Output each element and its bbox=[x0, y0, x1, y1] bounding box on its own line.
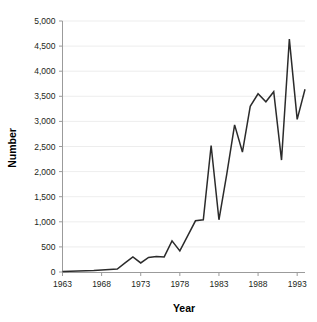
y-axis-tick-label: 0 bbox=[51, 267, 56, 277]
y-axis-tick-label: 2,000 bbox=[34, 167, 56, 177]
y-axis-ticks-group bbox=[59, 21, 63, 272]
y-axis-tick-label: 3,500 bbox=[34, 91, 56, 101]
y-axis-tick-label: 1,000 bbox=[34, 217, 56, 227]
y-axis-title: Number bbox=[6, 128, 18, 168]
x-axis-tick-label: 1963 bbox=[53, 279, 72, 289]
x-axis-tick-label: 1968 bbox=[92, 279, 111, 289]
y-axis-tick-label: 1,500 bbox=[34, 192, 56, 202]
y-axis-tick-label: 5,000 bbox=[34, 16, 56, 26]
x-axis-tick-label: 1993 bbox=[288, 279, 307, 289]
y-axis-tick-label: 3,000 bbox=[34, 116, 56, 126]
x-axis-tick-label: 1978 bbox=[170, 279, 189, 289]
x-axis-tick-label: 1988 bbox=[249, 279, 268, 289]
x-axis-title: Year bbox=[173, 302, 195, 314]
x-axis-tick-label: 1983 bbox=[209, 279, 228, 289]
chart-container: 05001,0001,5002,0002,5003,0003,5004,0004… bbox=[0, 0, 317, 322]
y-axis-tick-label: 4,000 bbox=[34, 66, 56, 76]
gridlines-group bbox=[63, 21, 306, 247]
y-axis-tick-label: 4,500 bbox=[34, 41, 56, 51]
data-series-line bbox=[63, 39, 306, 271]
y-axis-tick-label: 2,500 bbox=[34, 142, 56, 152]
x-axis-tick-label: 1973 bbox=[131, 279, 150, 289]
x-axis-tick-labels-group: 1963196819731978198319881993 bbox=[53, 279, 307, 289]
line-chart: 05001,0001,5002,0002,5003,0003,5004,0004… bbox=[0, 0, 317, 322]
y-axis-tick-label: 500 bbox=[41, 242, 55, 252]
y-axis-tick-labels-group: 05001,0001,5002,0002,5003,0003,5004,0004… bbox=[34, 16, 56, 277]
